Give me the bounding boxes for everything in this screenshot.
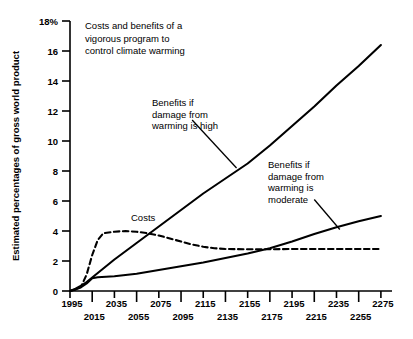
chart-title-line-1: vigorous program to — [85, 33, 169, 44]
chart-title-line-0: Costs and benefits of a — [85, 20, 183, 31]
y-tick-label-6: 6 — [53, 196, 58, 207]
y-tick-label-4: 4 — [53, 226, 59, 237]
y-tick-label-12: 12 — [47, 106, 58, 117]
x-tick-label-2275: 2275 — [372, 298, 394, 309]
y-tick-label-8: 8 — [53, 166, 58, 177]
x-tick-label-2215: 2215 — [306, 311, 328, 322]
y-tick-label-0: 0 — [53, 286, 58, 297]
y-axis-title: Estimated percentages of gross world pro… — [10, 50, 21, 261]
high-damage-label-line-0: Benefits if — [152, 97, 194, 108]
y-tick-label-10: 10 — [47, 136, 58, 147]
moderate-damage-label-line-1: damage from — [268, 171, 324, 182]
moderate-damage-label-line-3: moderate — [268, 194, 308, 205]
x-tick-label-2095: 2095 — [172, 311, 194, 322]
x-tick-label-2135: 2135 — [217, 311, 239, 322]
x-tick-label-2075: 2075 — [150, 298, 172, 309]
costs-label-line-0: Costs — [131, 212, 156, 223]
x-tick-label-2055: 2055 — [128, 311, 150, 322]
x-tick-label-2155: 2155 — [239, 298, 261, 309]
x-tick-label-2255: 2255 — [350, 311, 372, 322]
high-damage-label-line-2: warming is high — [151, 120, 218, 131]
chart-figure: 024681012141618% 19952015203520552075209… — [0, 0, 413, 339]
y-tick-label-18: 18% — [39, 16, 59, 27]
y-tick-label-16: 16 — [47, 46, 58, 57]
chart-title-line-2: control climate warming — [85, 45, 185, 56]
x-tick-label-2175: 2175 — [261, 311, 283, 322]
x-tick-label-1995: 1995 — [61, 298, 83, 309]
moderate-damage-label-line-2: warming is — [267, 182, 314, 193]
x-tick-label-2195: 2195 — [283, 298, 305, 309]
chart-background — [0, 0, 413, 339]
climate-costs-benefits-chart: 024681012141618% 19952015203520552075209… — [0, 0, 413, 339]
high-damage-label-line-1: damage from — [152, 109, 208, 120]
moderate-damage-label-line-0: Benefits if — [268, 159, 310, 170]
x-tick-label-2035: 2035 — [106, 298, 128, 309]
y-tick-label-14: 14 — [47, 76, 58, 87]
x-tick-label-2235: 2235 — [328, 298, 350, 309]
x-tick-label-2015: 2015 — [84, 311, 106, 322]
x-tick-label-2115: 2115 — [195, 298, 216, 309]
costs-label: Costs — [131, 212, 156, 223]
y-tick-label-2: 2 — [53, 256, 58, 267]
